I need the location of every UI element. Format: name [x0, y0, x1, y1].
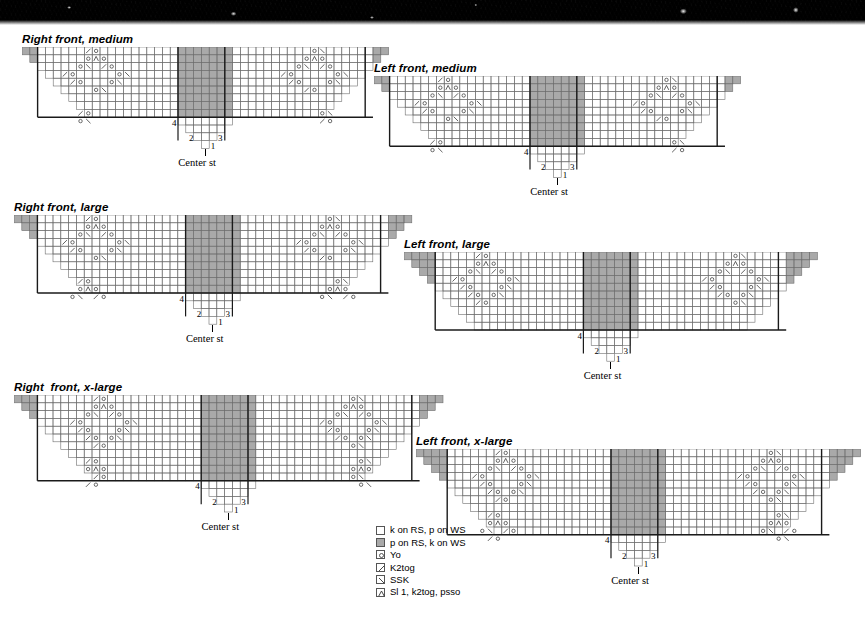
chart-grid-left-front-large: 1234Center st [404, 252, 819, 395]
legend-swatch-purl-icon [376, 538, 385, 547]
center-stitch-tick-right-front-large [212, 325, 213, 332]
center-stitch-label-right-front-xlarge: Center st [202, 521, 240, 532]
chart-title-right-front-xlarge: Right front, x-large [14, 381, 445, 393]
row-number-4-right-front-xlarge: 4 [195, 481, 200, 491]
legend-item-ssk: SSK [376, 574, 466, 586]
row-number-1-right-front-xlarge: 1 [234, 505, 239, 515]
legend-label: K2tog [390, 563, 415, 573]
row-number-2-right-front-large: 2 [197, 309, 202, 319]
center-stitch-label-left-front-xlarge: Center st [611, 575, 649, 586]
row-number-4-right-front-medium: 4 [172, 118, 177, 128]
center-stitch-tick-right-front-medium [205, 149, 206, 156]
row-number-1-left-front-xlarge: 1 [644, 559, 649, 569]
legend-item-k2tog: K2tog [376, 561, 466, 573]
chart-title-left-front-medium: Left front, medium [374, 62, 743, 74]
row-number-1-right-front-medium: 1 [211, 141, 216, 151]
legend-item-purl: p on RS, k on WS [376, 536, 466, 548]
center-stitch-label-right-front-large: Center st [186, 333, 224, 344]
knitted-fabric-photo-strip [0, 0, 865, 25]
center-stitch-tick-left-front-large [610, 362, 611, 369]
chart-grid-right-front-large: 1234Center st [14, 215, 414, 358]
chart-left-front-xlarge: Left front, x-large1234Center st [416, 435, 863, 600]
row-number-3-left-front-xlarge: 3 [651, 551, 656, 561]
chart-right-front-medium: Right front, medium1234Center st [22, 33, 391, 182]
row-number-3-left-front-medium: 3 [570, 162, 575, 172]
legend-item-sl1k2togpsso: Sl 1, k2tog, psso [376, 586, 466, 598]
legend-label: Yo [390, 550, 401, 560]
row-number-2-left-front-large: 2 [595, 346, 600, 356]
chart-title-left-front-large: Left front, large [404, 238, 819, 250]
chart-right-front-xlarge: Right front, x-large1234Center st [14, 381, 445, 546]
chart-title-right-front-large: Right front, large [14, 201, 414, 213]
row-number-3-right-front-medium: 3 [218, 133, 223, 143]
row-number-1-left-front-medium: 1 [563, 170, 568, 180]
row-number-4-left-front-xlarge: 4 [605, 535, 610, 545]
legend-label: p on RS, k on WS [390, 538, 466, 548]
chart-left-front-large: Left front, large1234Center st [404, 238, 819, 395]
chart-legend: k on RS, p on WSp on RS, k on WSYoK2togS… [376, 524, 466, 598]
row-number-2-left-front-medium: 2 [541, 162, 546, 172]
center-stitch-label-left-front-large: Center st [584, 370, 622, 381]
row-number-1-left-front-large: 1 [616, 354, 621, 364]
chart-title-left-front-xlarge: Left front, x-large [416, 435, 863, 447]
center-stitch-label-left-front-medium: Center st [530, 186, 568, 197]
chart-grid-left-front-medium: 1234Center st [374, 76, 743, 211]
row-number-1-right-front-large: 1 [218, 317, 223, 327]
photo-bottom-fade [0, 20, 865, 25]
row-number-4-left-front-medium: 4 [524, 147, 529, 157]
legend-swatch-k2tog-icon [376, 563, 385, 572]
chart-left-front-medium: Left front, medium1234Center st [374, 62, 743, 211]
legend-swatch-knit-icon [376, 526, 385, 535]
legend-item-yo: Yo [376, 549, 466, 561]
center-stitch-tick-left-front-medium [557, 178, 558, 185]
row-number-2-right-front-xlarge: 2 [212, 497, 217, 507]
row-number-2-left-front-xlarge: 2 [622, 551, 627, 561]
legend-label: SSK [390, 575, 409, 585]
legend-label: Sl 1, k2tog, psso [390, 587, 460, 597]
chart-grid-right-front-medium: 1234Center st [22, 47, 391, 182]
row-number-4-right-front-large: 4 [180, 294, 185, 304]
legend-swatch-sl1k2togpsso-icon [376, 588, 385, 597]
row-number-4-left-front-large: 4 [577, 331, 582, 341]
row-number-3-right-front-large: 3 [226, 309, 231, 319]
chart-title-right-front-medium: Right front, medium [22, 33, 391, 45]
chart-right-front-large: Right front, large1234Center st [14, 201, 414, 358]
center-stitch-label-right-front-medium: Center st [178, 157, 216, 168]
row-number-3-right-front-xlarge: 3 [241, 497, 246, 507]
legend-label: k on RS, p on WS [390, 525, 466, 535]
center-stitch-tick-right-front-xlarge [228, 513, 229, 520]
row-number-3-left-front-large: 3 [623, 346, 628, 356]
legend-item-knit: k on RS, p on WS [376, 524, 466, 536]
legend-swatch-yo-icon [376, 550, 385, 559]
chart-grid-left-front-xlarge: 1234Center st [416, 449, 863, 600]
page-root: Right front, medium1234Center stLeft fro… [0, 0, 865, 639]
center-stitch-tick-left-front-xlarge [638, 567, 639, 574]
row-number-2-right-front-medium: 2 [189, 133, 194, 143]
legend-swatch-ssk-icon [376, 575, 385, 584]
